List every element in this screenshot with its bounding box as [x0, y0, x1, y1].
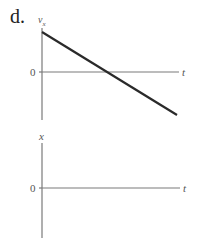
time-axis-label-top: t: [182, 66, 186, 78]
origin-label-top: 0: [30, 66, 36, 78]
kinematics-diagram: vx 0 t x 0 t: [0, 0, 207, 240]
origin-label-bottom: 0: [30, 182, 36, 194]
position-time-graph: x 0 t: [30, 130, 187, 238]
position-axis-label: x: [38, 130, 44, 142]
velocity-time-graph: vx 0 t: [30, 14, 186, 120]
time-axis-label-bottom: t: [183, 182, 187, 194]
velocity-line: [42, 32, 177, 115]
velocity-axis-label: vx: [38, 14, 46, 28]
